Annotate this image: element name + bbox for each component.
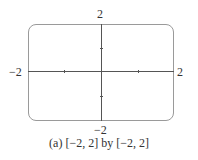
- x-tick-neg1: [64, 70, 65, 73]
- x-tick-1: [138, 70, 139, 73]
- figure-caption: (a) [−2, 2] by [−2, 2]: [0, 136, 198, 151]
- x-min-label: −2: [9, 66, 22, 78]
- x-max-label: 2: [177, 66, 183, 78]
- y-tick-neg1: [100, 96, 103, 97]
- y-axis: [101, 24, 102, 121]
- y-min-label: −2: [94, 124, 107, 136]
- y-max-label: 2: [97, 8, 103, 20]
- y-tick-1: [100, 48, 103, 49]
